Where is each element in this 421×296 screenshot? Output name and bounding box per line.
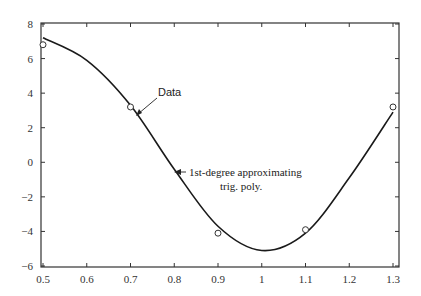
approximation-curve <box>43 38 393 251</box>
x-tick-label: 0.6 <box>80 273 94 285</box>
annotations: Data 1st-degree approximating trig. poly… <box>136 86 302 192</box>
y-tick-label: −4 <box>21 225 33 237</box>
data-point-marker <box>303 227 309 233</box>
x-tick-label: 1.2 <box>342 273 356 285</box>
x-tick-label: 0.9 <box>211 273 225 285</box>
y-tick-label: −6 <box>21 260 33 272</box>
annotation-poly-label-line2: trig. poly. <box>220 180 263 192</box>
x-tick-label: 0.7 <box>124 273 138 285</box>
x-tick-label: 0.5 <box>36 273 50 285</box>
data-markers <box>40 42 396 236</box>
annotation-data-label: Data <box>158 86 182 98</box>
y-tick-label: 2 <box>28 122 34 134</box>
y-axis-ticks: 86420−2−4−6 <box>21 18 399 272</box>
x-tick-label: 1 <box>259 273 265 285</box>
chart: 0.50.60.70.80.911.11.21.3 86420−2−4−6 Da… <box>0 0 421 296</box>
data-point-marker <box>215 230 221 236</box>
x-tick-label: 1.1 <box>299 273 313 285</box>
y-tick-label: 6 <box>28 53 34 65</box>
data-point-marker <box>128 104 134 110</box>
annotation-poly-label-line1: 1st-degree approximating <box>189 166 302 178</box>
y-tick-label: 4 <box>28 87 34 99</box>
x-tick-label: 1.3 <box>386 273 400 285</box>
data-point-marker <box>40 42 46 48</box>
y-tick-label: 8 <box>28 18 34 30</box>
y-tick-label: −2 <box>21 191 33 203</box>
x-axis-ticks: 0.50.60.70.80.911.11.21.3 <box>36 23 400 285</box>
y-tick-label: 0 <box>28 156 34 168</box>
data-point-marker <box>390 104 396 110</box>
x-tick-label: 0.8 <box>167 273 181 285</box>
